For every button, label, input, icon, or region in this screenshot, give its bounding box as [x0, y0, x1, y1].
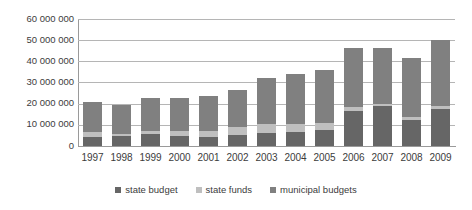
y-tick-label: 10 000 000	[2, 119, 74, 129]
bar-column	[78, 19, 107, 146]
bar-segment-municipal-budgets	[170, 98, 189, 131]
legend-label: state budget	[125, 184, 177, 195]
x-tick-label: 1999	[136, 152, 165, 164]
y-tick-label: 40 000 000	[2, 56, 74, 66]
x-tick-label: 2001	[194, 152, 223, 164]
legend-item[interactable]: municipal budgets	[270, 184, 357, 195]
x-tick-label: 2006	[339, 152, 368, 164]
bar-segment-municipal-budgets	[431, 40, 450, 106]
bar-segment-municipal-budgets	[228, 90, 247, 127]
y-axis-labels: 60 000 000 50 000 000 40 000 000 30 000 …	[0, 0, 74, 210]
bar-segment-municipal-budgets	[199, 96, 218, 131]
legend-label: municipal budgets	[280, 184, 357, 195]
legend-swatch-icon	[115, 187, 121, 193]
x-tick-label: 1998	[107, 152, 136, 164]
bar-segment-municipal-budgets	[344, 48, 363, 107]
legend-swatch-icon	[196, 187, 202, 193]
bar-stack	[112, 105, 131, 146]
bar-stack	[373, 48, 392, 146]
chart-legend: state budgetstate fundsmunicipal budgets	[0, 184, 472, 195]
bar-column	[165, 19, 194, 146]
bar-column	[281, 19, 310, 146]
bar-stack	[141, 98, 160, 146]
bar-segment-state-budget	[315, 130, 334, 147]
x-tick-label: 2003	[252, 152, 281, 164]
bar-stack	[286, 74, 305, 146]
bar-segment-state-budget	[257, 133, 276, 146]
bar-stack	[170, 98, 189, 146]
bar-segment-state-budget	[170, 136, 189, 146]
bar-stack	[344, 48, 363, 146]
bar-stack	[431, 40, 450, 146]
bar-segment-municipal-budgets	[373, 48, 392, 104]
x-tick-label: 1997	[78, 152, 107, 164]
bar-segment-municipal-budgets	[286, 74, 305, 124]
bar-column	[339, 19, 368, 146]
x-tick-label: 2007	[368, 152, 397, 164]
plot-area	[78, 19, 455, 146]
bar-segment-municipal-budgets	[315, 70, 334, 123]
bar-column	[223, 19, 252, 146]
bar-segment-municipal-budgets	[112, 105, 131, 134]
x-tick-label: 2008	[397, 152, 426, 164]
bar-stack	[199, 96, 218, 146]
bar-segment-state-budget	[344, 111, 363, 146]
bar-segment-state-budget	[373, 106, 392, 146]
bar-column	[426, 19, 455, 146]
x-axis-line	[78, 146, 456, 147]
x-axis-labels: 1997199819992000200120022003200420052006…	[78, 152, 455, 164]
legend-item[interactable]: state budget	[115, 184, 177, 195]
bar-segment-municipal-budgets	[83, 102, 102, 132]
bar-segment-state-funds	[286, 124, 305, 132]
bar-column	[252, 19, 281, 146]
bar-segment-municipal-budgets	[141, 98, 160, 131]
legend-swatch-icon	[270, 187, 276, 193]
bar-column	[368, 19, 397, 146]
bar-stack	[315, 70, 334, 146]
x-tick-label: 2009	[426, 152, 455, 164]
bar-segment-state-budget	[83, 137, 102, 146]
y-tick-label: 20 000 000	[2, 98, 74, 108]
y-tick-label: 50 000 000	[2, 35, 74, 45]
legend-item[interactable]: state funds	[196, 184, 252, 195]
bar-segment-state-budget	[402, 120, 421, 146]
x-tick-label: 2002	[223, 152, 252, 164]
bar-column	[397, 19, 426, 146]
y-tick-label: 0	[2, 141, 74, 151]
bar-stack	[83, 102, 102, 146]
bar-segment-municipal-budgets	[402, 58, 421, 117]
x-tick-label: 2005	[310, 152, 339, 164]
y-tick-label: 60 000 000	[2, 14, 74, 24]
bar-series-container	[78, 19, 455, 146]
bar-segment-state-funds	[228, 127, 247, 135]
bar-column	[310, 19, 339, 146]
legend-label: state funds	[206, 184, 252, 195]
bar-segment-state-budget	[199, 137, 218, 146]
bar-segment-state-budget	[112, 136, 131, 146]
stacked-bar-chart: 60 000 000 50 000 000 40 000 000 30 000 …	[0, 0, 472, 210]
bar-column	[136, 19, 165, 146]
bar-segment-state-funds	[257, 124, 276, 132]
bar-stack	[228, 90, 247, 146]
bar-column	[107, 19, 136, 146]
x-tick-label: 2004	[281, 152, 310, 164]
bar-segment-state-budget	[286, 132, 305, 146]
x-tick-label: 2000	[165, 152, 194, 164]
bar-stack	[402, 58, 421, 146]
bar-segment-state-budget	[228, 135, 247, 146]
bar-segment-municipal-budgets	[257, 78, 276, 124]
bar-column	[194, 19, 223, 146]
bar-segment-state-budget	[141, 134, 160, 146]
bar-stack	[257, 78, 276, 146]
bar-segment-state-budget	[431, 109, 450, 146]
y-tick-label: 30 000 000	[2, 77, 74, 87]
